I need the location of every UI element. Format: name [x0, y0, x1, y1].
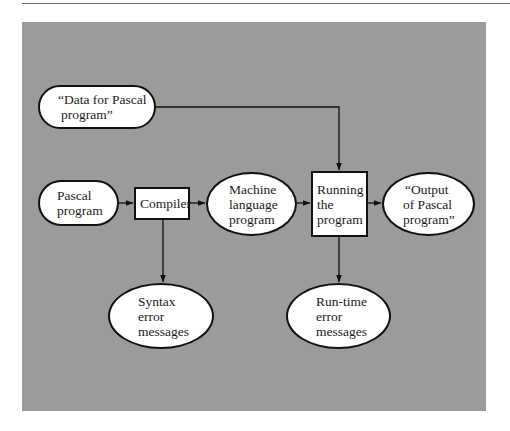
node-label-line: Pascal: [57, 188, 117, 203]
node-label-line: program: [229, 212, 295, 227]
node-running-the-program: Running the program: [311, 171, 368, 237]
node-data-for-pascal-program: “Data for Pascal program”: [38, 85, 156, 129]
node-label-line: Compiler: [140, 196, 188, 211]
node-label-line: the: [317, 197, 366, 212]
node-syntax-error-messages: Syntax error messages: [108, 283, 214, 349]
node-run-time-error-messages: Run-time error messages: [286, 283, 391, 349]
node-label-line: language: [229, 197, 295, 212]
node-label-line: Syntax: [138, 294, 212, 309]
node-label-line: messages: [138, 324, 212, 339]
node-label-line: program: [57, 203, 117, 218]
node-machine-language-program: Machine language program: [206, 172, 297, 236]
node-label-line: messages: [316, 324, 389, 339]
node-label-line: “Data for Pascal: [58, 92, 154, 107]
node-label-line: Run-time: [316, 294, 389, 309]
top-rule-divider: [22, 3, 510, 4]
node-label-line: error: [316, 309, 389, 324]
node-label-line: Running: [317, 182, 366, 197]
node-label-line: error: [138, 309, 212, 324]
node-compiler: Compiler: [134, 187, 190, 220]
node-label-line: of Pascal: [403, 197, 473, 212]
node-pascal-program: Pascal program: [38, 180, 119, 226]
node-label-line: Machine: [229, 182, 295, 197]
node-label-line: program”: [403, 212, 473, 227]
node-label-line: program”: [58, 107, 154, 122]
node-label-line: program: [317, 212, 366, 227]
node-output-of-pascal-program: “Output of Pascal program”: [382, 172, 475, 236]
node-label-line: “Output: [403, 182, 473, 197]
